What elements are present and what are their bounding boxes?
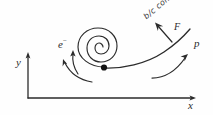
y-axis-label: y: [16, 57, 21, 68]
spin-arrow-inner: [70, 50, 78, 74]
electron-charge-sign: −: [63, 37, 67, 45]
momentum-arrow: [152, 54, 188, 78]
momentum-arrowhead: [181, 54, 188, 61]
outgoing-curve: [103, 29, 190, 68]
x-axis: [28, 96, 196, 101]
spiral-trajectory: [78, 28, 117, 67]
sketch-canvas: [0, 0, 213, 115]
y-axis: [26, 52, 31, 98]
x-axis-label: x: [188, 100, 193, 111]
force-arrow: [155, 23, 172, 43]
momentum-label: p: [194, 38, 200, 49]
particle-dot: [101, 64, 107, 70]
physics-sketch-figure: y x e− p F b/c conv: [0, 0, 213, 115]
electron-label: e−: [58, 38, 67, 50]
force-label: F: [174, 22, 180, 32]
